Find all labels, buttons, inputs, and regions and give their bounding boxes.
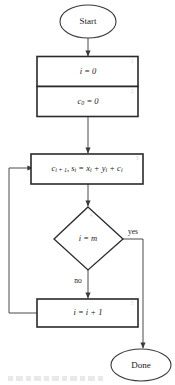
node-increment-i-number: 5 xyxy=(131,300,134,306)
node-increment-i-label: i = i + 1 xyxy=(74,307,103,317)
edge-label-yes: yes xyxy=(128,227,138,236)
edge-increment-to-compute-feedback xyxy=(9,168,37,313)
node-compute-sum-number: 3 xyxy=(136,155,139,161)
node-init-i-label: i = 0 xyxy=(80,66,97,76)
edge-label-no: no xyxy=(74,276,82,285)
node-start-label: Start xyxy=(80,16,97,26)
node-init-c0-label: c0 = 0 xyxy=(77,96,99,106)
node-decision-number: 4 xyxy=(90,212,93,218)
node-decision-label: i = m xyxy=(79,233,98,243)
node-init-c0-number: 2 xyxy=(131,88,134,94)
flowchart-svg: Start i = 0 1 c0 = 0 2 ci + 1, si = xi +… xyxy=(0,0,175,385)
node-done-label: Done xyxy=(131,360,151,370)
edge-decision-yes-to-done xyxy=(123,239,143,348)
flowchart-canvas: Start i = 0 1 c0 = 0 2 ci + 1, si = xi +… xyxy=(0,0,175,385)
caption-fragment xyxy=(8,376,104,381)
node-init-i-number: 1 xyxy=(131,58,134,64)
